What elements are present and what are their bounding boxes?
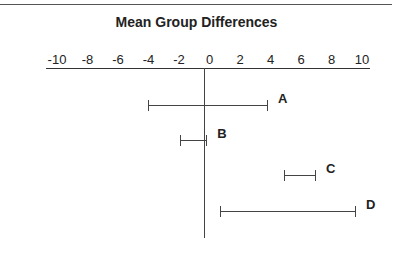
interval-label: A [278, 91, 287, 106]
top-border-rule [0, 4, 392, 5]
x-tick-label: -6 [112, 52, 124, 67]
x-tick-label: -2 [173, 52, 185, 67]
interval-cap [315, 170, 316, 181]
interval-label: C [326, 161, 335, 176]
interval-cap [284, 170, 285, 181]
interval-cap [267, 100, 268, 111]
x-tick-label: -4 [143, 52, 155, 67]
interval-bar-d [220, 211, 356, 212]
x-tick-label: -8 [82, 52, 94, 67]
chart-title: Mean Group Differences [0, 14, 393, 30]
x-tick-label: 4 [267, 52, 274, 67]
x-tick-label: -10 [48, 52, 67, 67]
x-axis-line [46, 68, 370, 69]
interval-bar-c [284, 175, 316, 176]
x-tick-label: 8 [328, 52, 335, 67]
interval-cap [180, 135, 181, 146]
interval-cap [355, 206, 356, 217]
x-tick-label: 6 [297, 52, 304, 67]
interval-bar-b [180, 140, 207, 141]
interval-bar-a [148, 105, 268, 106]
interval-cap [206, 135, 207, 146]
x-tick-label: 2 [236, 52, 243, 67]
x-tick-label: 0 [206, 52, 213, 67]
interval-label: D [366, 197, 375, 212]
interval-cap [220, 206, 221, 217]
x-tick-label: 10 [355, 52, 369, 67]
interval-cap [148, 100, 149, 111]
interval-label: B [217, 126, 226, 141]
zero-reference-line [204, 68, 205, 238]
